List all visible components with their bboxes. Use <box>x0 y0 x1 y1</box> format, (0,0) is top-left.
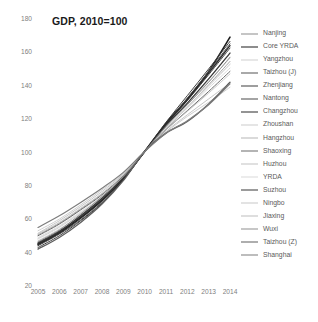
x-tick-label: 2013 <box>201 288 216 295</box>
legend-label: Hangzhou <box>263 135 294 142</box>
y-tick-label: 160 <box>21 48 32 55</box>
legend-label: Yangzhou <box>263 56 293 63</box>
legend-label: Changzhou <box>263 108 298 115</box>
legend-label: Zhenjiang <box>263 82 293 89</box>
legend-line-swatch <box>241 213 258 220</box>
legend-label: Core YRDA <box>263 43 298 50</box>
series-line <box>38 87 230 231</box>
y-tick-label: 40 <box>25 248 32 255</box>
legend-item[interactable]: Nantong <box>241 92 318 105</box>
series-line <box>38 41 230 247</box>
y-tick-label: 120 <box>21 115 32 122</box>
series-line <box>38 48 230 242</box>
legend-item[interactable]: Wuxi <box>241 223 318 236</box>
series-line <box>38 84 230 228</box>
x-tick-label: 2006 <box>52 288 67 295</box>
legend-item[interactable]: Jiaxing <box>241 210 318 223</box>
legend-item[interactable]: Zhenjiang <box>241 79 318 92</box>
legend-item[interactable]: YRDA <box>241 171 318 184</box>
legend-item[interactable]: Hangzhou <box>241 131 318 144</box>
legend-line-swatch <box>241 95 258 102</box>
series-line <box>38 46 230 245</box>
legend-item[interactable]: Suzhou <box>241 184 318 197</box>
legend-item[interactable]: Changzhou <box>241 105 318 118</box>
y-tick-label: 180 <box>21 15 32 22</box>
legend-label: Wuxi <box>263 226 278 233</box>
legend-label: Nantong <box>263 95 289 102</box>
legend-item[interactable]: Ningbo <box>241 197 318 210</box>
chart-legend: NanjingCore YRDAYangzhouTaizhou (J)Zhenj… <box>241 27 318 262</box>
legend-item[interactable]: Nanjing <box>241 27 318 40</box>
legend-label: Taizhou (Z) <box>263 239 297 246</box>
legend-item[interactable]: Yangzhou <box>241 53 318 66</box>
x-tick-label: 2008 <box>95 288 110 295</box>
series-line <box>38 37 230 244</box>
legend-item[interactable]: Huzhou <box>241 157 318 170</box>
x-tick-label: 2007 <box>73 288 88 295</box>
legend-line-swatch <box>241 160 258 167</box>
legend-line-swatch <box>241 200 258 207</box>
legend-line-swatch <box>241 56 258 63</box>
legend-item[interactable]: Shanghai <box>241 249 318 262</box>
legend-label: Ningbo <box>263 200 285 207</box>
y-axis: 20406080100120140160180 <box>0 0 38 322</box>
x-tick-label: 2010 <box>137 288 152 295</box>
y-tick-label: 100 <box>21 148 32 155</box>
legend-item[interactable]: Taizhou (J) <box>241 66 318 79</box>
legend-item[interactable]: Zhoushan <box>241 118 318 131</box>
legend-line-swatch <box>241 30 258 37</box>
y-tick-label: 140 <box>21 81 32 88</box>
legend-line-swatch <box>241 239 258 246</box>
x-axis: 2005200620072008200920102011201220132014 <box>38 288 230 302</box>
x-tick-label: 2014 <box>223 288 238 295</box>
chart-figure: GDP, 2010=100 20406080100120140160180 20… <box>0 0 318 322</box>
y-tick-label: 60 <box>25 215 32 222</box>
legend-line-swatch <box>241 187 258 194</box>
legend-line-swatch <box>241 134 258 141</box>
legend-label: YRDA <box>263 174 282 181</box>
x-tick-label: 2012 <box>180 288 195 295</box>
line-plot <box>38 18 230 285</box>
legend-label: Nanjing <box>263 30 286 37</box>
legend-label: Shanghai <box>263 252 292 259</box>
series-line <box>38 58 230 241</box>
legend-item[interactable]: Core YRDA <box>241 40 318 53</box>
legend-item[interactable]: Taizhou (Z) <box>241 236 318 249</box>
legend-line-swatch <box>241 43 258 50</box>
legend-item[interactable]: Shaoxing <box>241 144 318 157</box>
x-tick-label: 2005 <box>31 288 46 295</box>
legend-label: Taizhou (J) <box>263 69 296 76</box>
legend-line-swatch <box>241 69 258 76</box>
legend-label: Huzhou <box>263 161 286 168</box>
legend-line-swatch <box>241 147 258 154</box>
legend-label: Zhoushan <box>263 121 293 128</box>
legend-line-swatch <box>241 108 258 115</box>
legend-label: Shaoxing <box>263 148 291 155</box>
legend-label: Jiaxing <box>263 213 284 220</box>
x-tick-label: 2011 <box>159 288 173 295</box>
legend-line-swatch <box>241 82 258 89</box>
legend-line-swatch <box>241 226 258 233</box>
legend-line-swatch <box>241 174 258 181</box>
y-tick-label: 80 <box>25 181 32 188</box>
legend-line-swatch <box>241 121 258 128</box>
plot-area <box>38 18 230 285</box>
x-tick-label: 2009 <box>116 288 131 295</box>
legend-line-swatch <box>241 252 258 259</box>
legend-label: Suzhou <box>263 187 286 194</box>
